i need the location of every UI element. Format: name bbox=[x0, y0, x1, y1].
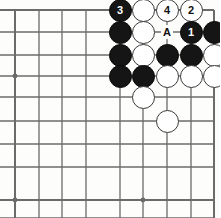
stone-black[interactable] bbox=[203, 21, 221, 44]
stone-white[interactable] bbox=[203, 44, 221, 67]
stone-black[interactable] bbox=[156, 44, 179, 67]
star-point bbox=[13, 198, 18, 203]
stone-black[interactable] bbox=[109, 65, 132, 88]
stone-white[interactable] bbox=[132, 86, 155, 109]
star-point bbox=[13, 74, 18, 79]
stone-black[interactable] bbox=[109, 21, 132, 44]
stone-white-move-2[interactable]: 2 bbox=[180, 0, 203, 22]
star-point bbox=[141, 198, 146, 203]
stone-white[interactable] bbox=[132, 44, 155, 67]
stone-white-move-4[interactable]: 4 bbox=[156, 0, 179, 22]
stone-white[interactable] bbox=[203, 65, 221, 88]
stone-black-move-1[interactable]: 1 bbox=[180, 21, 203, 44]
stone-white[interactable] bbox=[132, 0, 155, 22]
stone-black[interactable] bbox=[132, 65, 155, 88]
go-diagram: 3421A bbox=[0, 0, 220, 218]
point-marker-a[interactable]: A bbox=[161, 25, 173, 39]
stone-black[interactable] bbox=[180, 44, 203, 67]
stone-black-move-3[interactable]: 3 bbox=[109, 0, 132, 22]
stone-white[interactable] bbox=[156, 110, 179, 133]
stone-white[interactable] bbox=[180, 65, 203, 88]
stone-white[interactable] bbox=[156, 65, 179, 88]
stone-black[interactable] bbox=[109, 44, 132, 67]
stone-white[interactable] bbox=[132, 21, 155, 44]
